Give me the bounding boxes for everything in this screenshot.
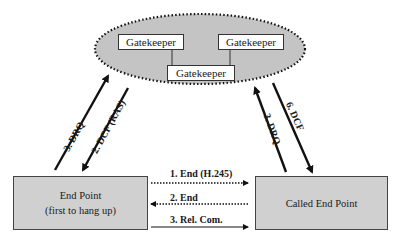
gatekeeper-box-1: Gatekeeper [118,34,184,50]
called-endpoint-name: Called End Point [286,196,358,211]
label-h245-end: 1. End (H.245) [170,168,232,179]
label-release-complete: 3. Rel. Com. [170,214,223,225]
caller-endpoint-name: End Point [60,188,102,203]
caller-endpoint-box: End Point (first to hang up) [13,176,148,230]
gatekeeper-box-3: Gatekeeper [167,65,235,81]
called-endpoint-box: Called End Point [255,176,388,230]
caller-endpoint-note: (first to hang up) [45,203,116,218]
label-end: 2. End [170,192,198,203]
gatekeeper-box-2: Gatekeeper [218,34,284,50]
